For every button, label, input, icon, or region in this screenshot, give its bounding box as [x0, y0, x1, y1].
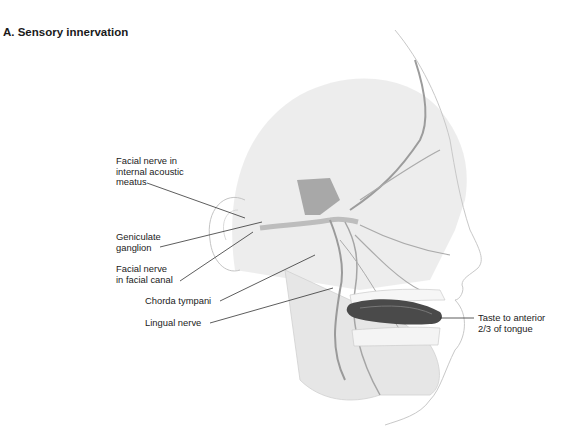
label-taste-anterior-tongue: Taste to anterior 2/3 of tongue: [478, 313, 545, 334]
label-lingual-nerve: Lingual nerve: [145, 318, 201, 329]
label-facial-nerve-internal-acoustic-meatus: Facial nerve in internal acoustic meatus: [116, 156, 184, 188]
lower-teeth: [352, 327, 440, 346]
label-facial-nerve-facial-canal: Facial nerve in facial canal: [116, 264, 173, 285]
label-chorda-tympani: Chorda tympani: [145, 296, 211, 307]
skull-illustration: [0, 0, 577, 430]
skull-cranium: [232, 79, 467, 290]
leader-facial-nerve-meatus: [147, 183, 245, 218]
label-geniculate-ganglion: Geniculate ganglion: [116, 232, 161, 253]
